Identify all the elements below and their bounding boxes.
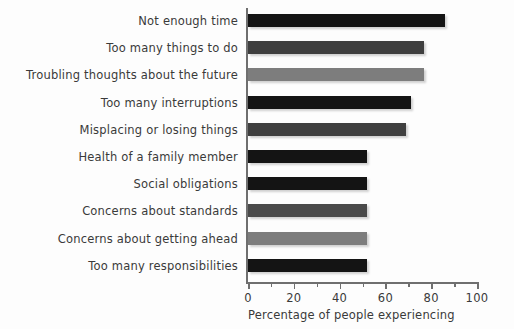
bar-row: Social obligations [0, 171, 514, 197]
bar-fill [248, 68, 424, 81]
bar [248, 232, 367, 245]
x-tick-minor [363, 282, 365, 287]
bar [248, 68, 424, 81]
bar-chart: Not enough timeToo many things to doTrou… [0, 0, 514, 329]
x-tick-label: 60 [378, 291, 393, 305]
bar-row: Too many things to do [0, 35, 514, 61]
bar-row: Troubling thoughts about the future [0, 62, 514, 88]
bar-row: Health of a family member [0, 144, 514, 170]
category-label: Too many interruptions [0, 90, 238, 116]
bar-fill [248, 177, 367, 190]
x-axis-title: Percentage of people experiencing [248, 308, 455, 322]
bar [248, 123, 406, 136]
bar-row: Concerns about standards [0, 198, 514, 224]
category-label: Too many responsibilities [0, 253, 238, 279]
bar-row: Misplacing or losing things [0, 117, 514, 143]
category-label: Social obligations [0, 171, 238, 197]
x-tick-label: 100 [466, 291, 489, 305]
x-tick-label: 40 [332, 291, 347, 305]
bar-fill [248, 259, 367, 272]
x-tick-major [477, 282, 479, 289]
bar-fill [248, 150, 367, 163]
bar [248, 150, 367, 163]
bar-row: Not enough time [0, 8, 514, 34]
category-label: Troubling thoughts about the future [0, 62, 238, 88]
category-label: Too many things to do [0, 35, 238, 61]
bar-fill [248, 123, 406, 136]
bar [248, 177, 367, 190]
bar-row: Too many responsibilities [0, 253, 514, 279]
bar [248, 259, 367, 272]
bar [248, 14, 445, 27]
bar [248, 41, 424, 54]
bar-row: Concerns about getting ahead [0, 226, 514, 252]
x-tick-major [385, 282, 387, 289]
bar-fill [248, 204, 367, 217]
x-tick-label: 20 [286, 291, 301, 305]
category-label: Concerns about getting ahead [0, 226, 238, 252]
x-tick-minor [454, 282, 456, 287]
bar [248, 96, 411, 109]
bar-fill [248, 96, 411, 109]
category-label: Misplacing or losing things [0, 117, 238, 143]
x-tick-label: 0 [244, 291, 252, 305]
x-tick-label: 80 [424, 291, 439, 305]
bar-fill [248, 14, 445, 27]
bar [248, 204, 367, 217]
category-label: Health of a family member [0, 144, 238, 170]
x-tick-major [340, 282, 342, 289]
category-label: Concerns about standards [0, 198, 238, 224]
x-tick-minor [408, 282, 410, 287]
x-tick-major [248, 282, 250, 289]
bar-fill [248, 232, 367, 245]
category-label: Not enough time [0, 8, 238, 34]
x-tick-minor [317, 282, 319, 287]
x-tick-minor [271, 282, 273, 287]
bar-fill [248, 41, 424, 54]
x-tick-major [431, 282, 433, 289]
x-tick-major [294, 282, 296, 289]
bar-row: Too many interruptions [0, 90, 514, 116]
